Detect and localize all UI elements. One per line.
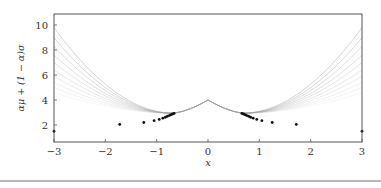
curve-line (54, 70, 362, 113)
y-tick-label: 8 (42, 45, 48, 56)
x-tick-label: −2 (98, 146, 113, 157)
curve-group (54, 28, 362, 114)
data-point (249, 116, 252, 119)
y-axis-label: αμ + (1 − α)σ (15, 44, 26, 111)
curve-line (54, 38, 362, 114)
curve-line (54, 76, 362, 113)
y-tick-label: 4 (42, 95, 48, 106)
x-axis-label: x (205, 157, 211, 168)
y-tick-label: 10 (35, 20, 48, 31)
x-tick-label: 1 (256, 146, 262, 157)
data-point (158, 118, 161, 121)
plot-frame (54, 14, 362, 142)
data-point (161, 117, 164, 120)
data-point (153, 119, 156, 122)
data-point (173, 112, 176, 115)
chart: −3−2−10123 246810 x αμ + (1 − α)σ (0, 0, 381, 188)
data-point (255, 118, 258, 121)
x-tick-label: 0 (205, 146, 211, 157)
data-point (261, 119, 264, 122)
data-point (142, 121, 145, 124)
x-tick-label: −3 (47, 146, 62, 157)
x-tick-label: 3 (359, 146, 365, 157)
data-point (252, 117, 255, 120)
x-tick-label: −1 (149, 146, 164, 157)
divider (0, 180, 381, 182)
y-tick-label: 6 (42, 70, 48, 81)
data-point (118, 123, 121, 126)
curve-line (54, 63, 362, 114)
data-point (271, 121, 274, 124)
data-point (295, 123, 298, 126)
scatter-points (53, 112, 364, 133)
y-tick-label: 2 (42, 120, 48, 131)
x-tick-label: 2 (307, 146, 313, 157)
